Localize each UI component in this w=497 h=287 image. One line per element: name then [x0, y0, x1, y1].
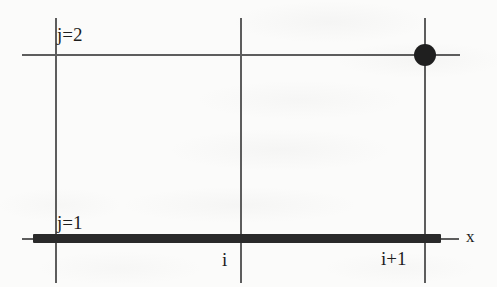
gridline-node-i-vertical — [240, 18, 242, 283]
label-node-i: i — [222, 250, 227, 269]
mesh-diagram-figure: j=2 j=1 i i+1 x — [0, 0, 497, 287]
label-x-axis: x — [466, 228, 475, 245]
label-node-i-plus-1: i+1 — [381, 249, 407, 268]
j1-element-bar — [33, 234, 441, 243]
filled-node-marker — [414, 44, 436, 66]
label-j2: j=2 — [57, 25, 83, 44]
gridline-left-vertical — [55, 18, 57, 283]
label-j1: j=1 — [57, 213, 83, 232]
